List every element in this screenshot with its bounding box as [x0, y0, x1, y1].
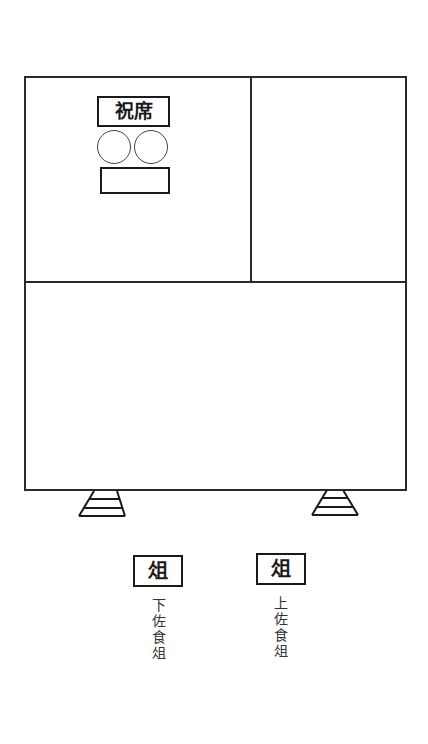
seat-label-box: 祝席: [97, 96, 170, 127]
stand-left-label-box: 俎: [133, 555, 183, 587]
room-divider-vertical: [250, 76, 252, 283]
stand-left-label-text: 俎: [148, 561, 168, 581]
vessel-circle-left-icon: [97, 130, 131, 164]
stairs-left-icon: [77, 490, 127, 518]
stand-right-label-text: 俎: [271, 559, 291, 579]
stairs-right-icon: [310, 489, 360, 517]
stand-right-caption: 上佐食俎: [273, 596, 287, 660]
room-outline: [24, 76, 407, 491]
seat-label-text: 祝席: [115, 102, 153, 121]
seat-plate-rectangle: [100, 167, 170, 194]
stand-right-label-box: 俎: [256, 553, 306, 585]
stand-left-caption: 下佐食俎: [151, 598, 165, 662]
vessel-circle-right-icon: [134, 130, 168, 164]
room-divider-horizontal: [24, 281, 407, 283]
